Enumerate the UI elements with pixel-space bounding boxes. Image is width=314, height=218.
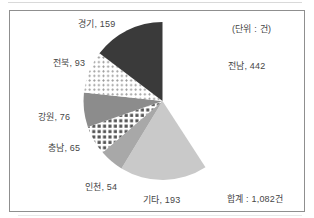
slice-label-jeonbuk: 전북, 93: [53, 58, 85, 68]
total-label: 합계 : 1,082건: [227, 194, 283, 204]
unit-note: (단위 : 건): [232, 24, 271, 34]
slice-label-jeonnam: 전남, 442: [228, 61, 265, 71]
slice-label-chungnam: 충남, 65: [48, 143, 80, 153]
slice-label-gangwon: 강원, 76: [38, 112, 70, 122]
chart-image: 경기, 159 (단위 : 건) 전북, 93 전남, 442 강원, 76 충…: [0, 0, 314, 218]
slice-label-gita: 기타, 193: [143, 195, 180, 205]
slice-label-gyeonggi: 경기, 159: [78, 19, 115, 29]
slice-label-incheon: 인천, 54: [85, 182, 117, 192]
scan-artifact-line-bottom: [18, 215, 302, 216]
